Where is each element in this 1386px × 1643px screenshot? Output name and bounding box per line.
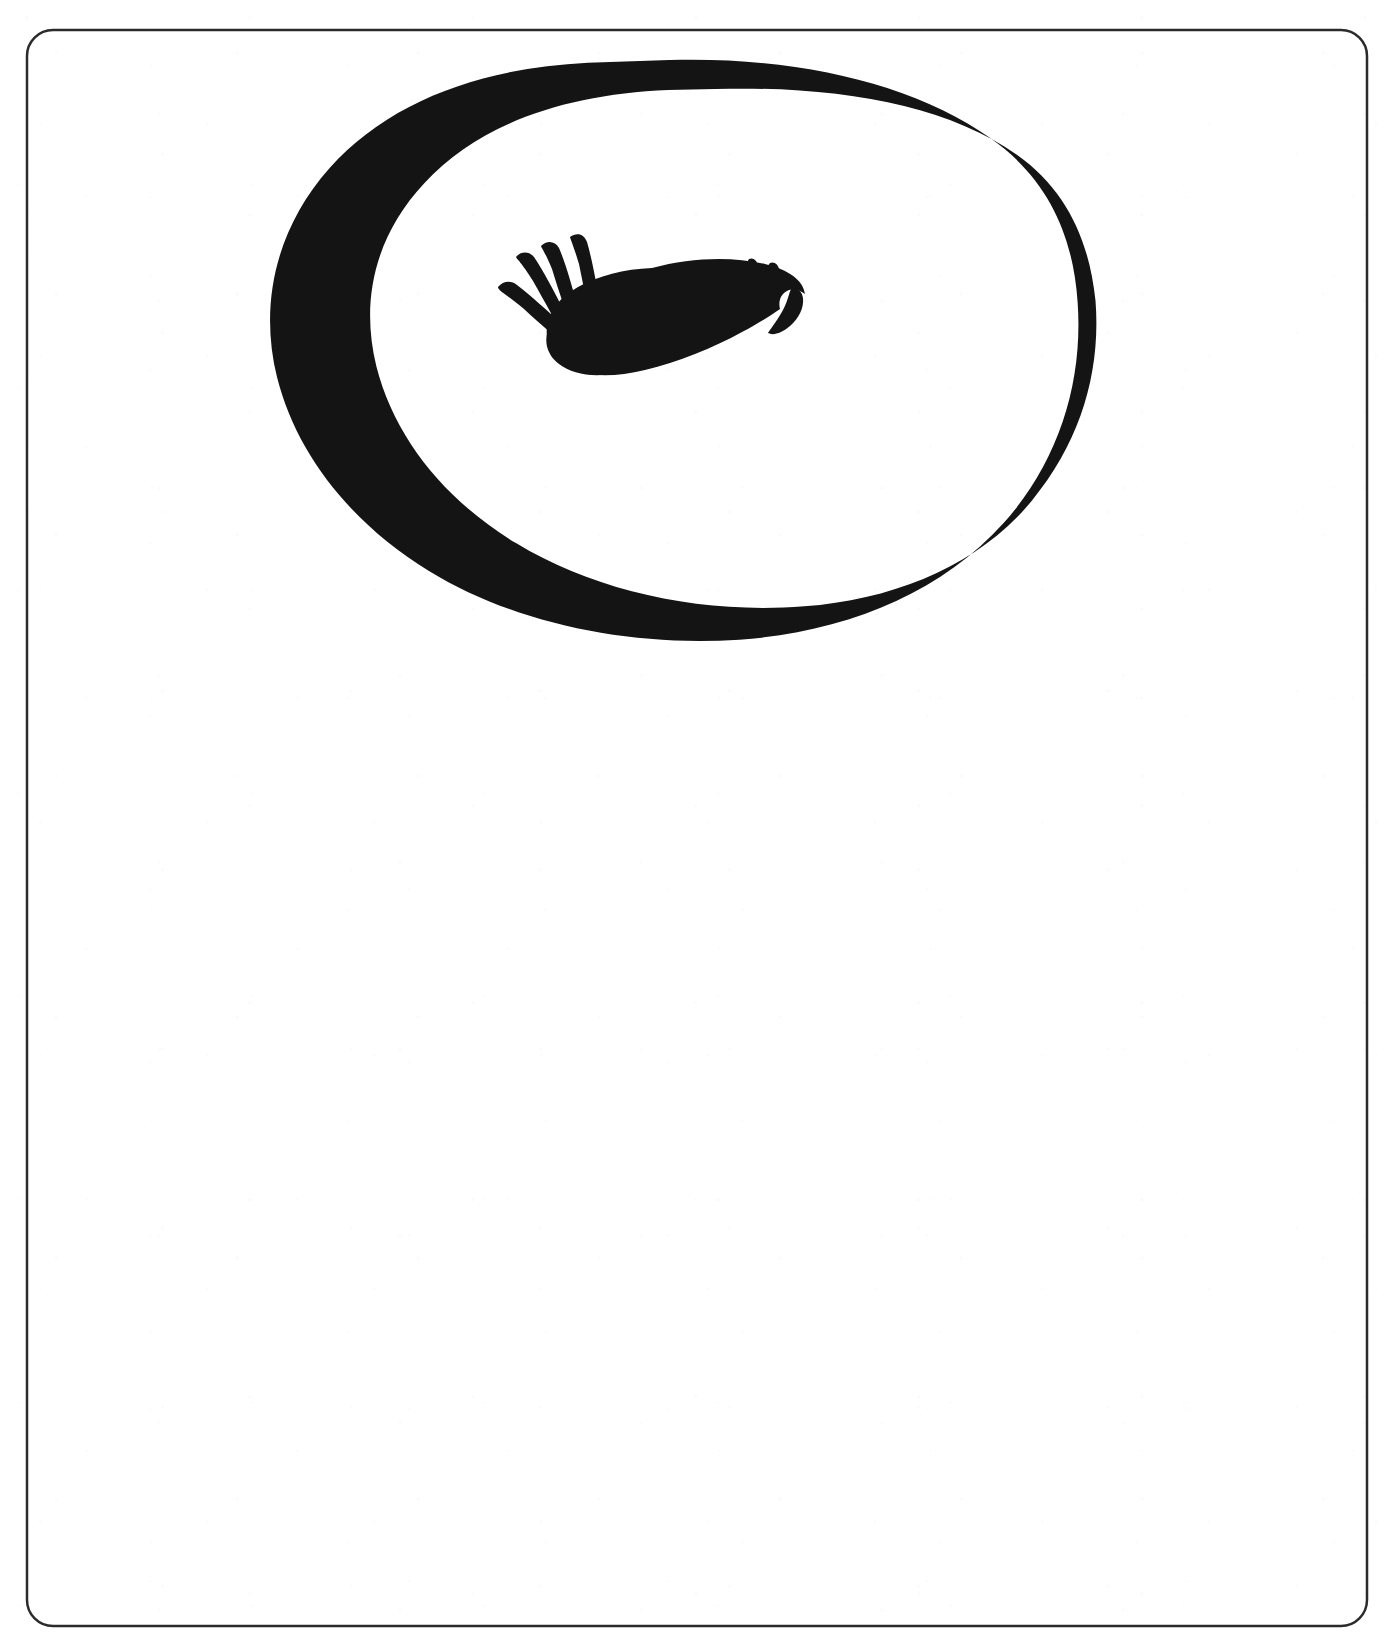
ink-drawing xyxy=(0,0,1386,1643)
bird-figure-group xyxy=(498,234,805,375)
scanned-page xyxy=(0,0,1386,1643)
